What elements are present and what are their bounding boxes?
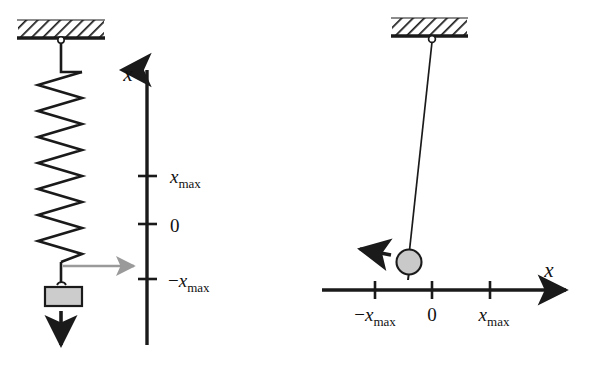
pendulum-ceiling-hatch-area	[392, 18, 467, 35]
physics-figure: x xmax 0 −xmax	[0, 0, 597, 369]
horizontal-axis-label: x	[543, 258, 554, 282]
bob-body	[397, 250, 422, 275]
h-neg-xmax-subscript: max	[373, 314, 396, 329]
neg-sign: −	[168, 270, 179, 291]
vertical-tick-label-zero: 0	[170, 215, 180, 236]
figure-canvas: x xmax 0 −xmax	[0, 0, 597, 369]
pivot-point	[429, 36, 436, 43]
horizontal-tick-label-zero: 0	[427, 304, 437, 325]
xmax-subscript: max	[178, 176, 201, 191]
vertical-axis-label: x	[122, 62, 133, 86]
h-xmax-subscript: max	[487, 314, 510, 329]
spring-anchor-point	[58, 37, 64, 43]
ceiling-hatch-area	[18, 20, 104, 37]
h-neg-sign: −	[354, 304, 365, 325]
neg-xmax-subscript: max	[187, 280, 210, 295]
block-body	[45, 287, 82, 306]
